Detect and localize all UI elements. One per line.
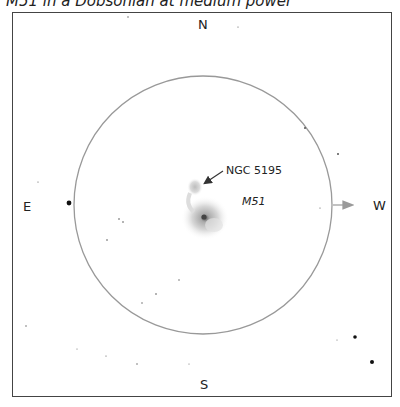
west-label: W xyxy=(373,198,386,213)
star xyxy=(304,127,306,129)
star xyxy=(122,221,124,223)
star xyxy=(155,293,157,295)
star xyxy=(319,207,320,208)
star xyxy=(189,364,190,365)
north-label: N xyxy=(198,17,208,32)
star xyxy=(370,360,374,364)
star xyxy=(37,181,38,182)
star xyxy=(141,302,142,303)
star xyxy=(136,363,137,364)
star xyxy=(337,340,338,341)
south-label: S xyxy=(200,377,208,392)
star xyxy=(337,153,339,155)
ngc5195-pointer-arrow xyxy=(205,171,223,183)
star xyxy=(67,201,72,206)
star xyxy=(127,16,128,17)
star xyxy=(118,218,120,220)
star xyxy=(237,26,238,27)
star xyxy=(105,355,106,356)
star xyxy=(106,239,108,241)
m51-label: M51 xyxy=(242,195,266,208)
star xyxy=(353,335,357,339)
star xyxy=(77,349,78,350)
ngc5195-label: NGC 5195 xyxy=(226,164,282,177)
east-label: E xyxy=(23,199,31,214)
star xyxy=(25,325,26,326)
star-field xyxy=(0,0,400,407)
star xyxy=(178,279,179,280)
